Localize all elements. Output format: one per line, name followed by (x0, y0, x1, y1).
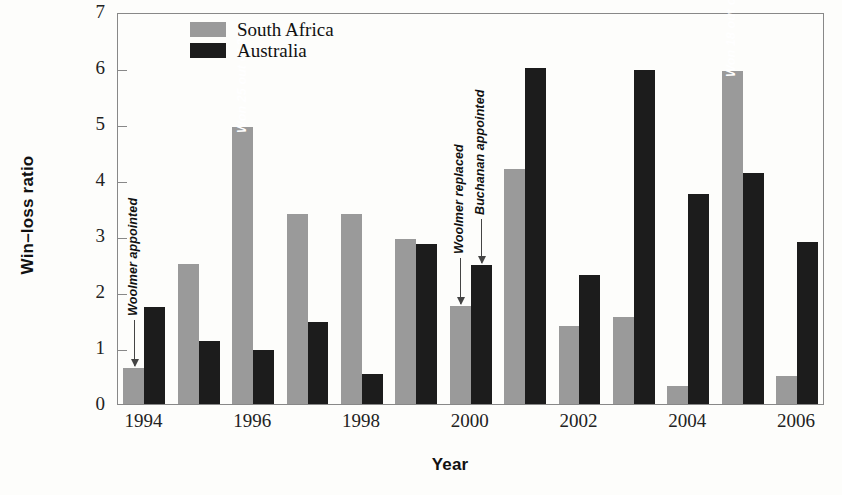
y-axis-tick-label: 3 (75, 225, 105, 247)
bar-australia-2000 (471, 265, 492, 404)
bar-south-africa-1995 (178, 264, 199, 404)
x-axis-tick-label: 2002 (543, 410, 613, 432)
bar-australia-2003 (634, 70, 655, 404)
plot-area: Woolmer appointedWon 25 out of 30Woolmer… (117, 13, 824, 405)
legend-label-south-africa: South Africa (237, 20, 334, 39)
annotation-buchanan-appointed: Buchanan appointed (473, 90, 487, 215)
y-axis-tick-label: 7 (75, 1, 105, 23)
bar-australia-2005 (743, 173, 764, 404)
bar-south-africa-2001 (504, 169, 525, 404)
bar-south-africa-2005 (722, 71, 743, 404)
annotation-won-18-of-24: Won 18 out of 24, 13 in a row (Zim,WI, N… (724, 0, 738, 77)
legend-swatch-south-africa (190, 22, 226, 37)
bar-australia-2004 (688, 194, 709, 404)
y-axis-tick-label: 1 (75, 337, 105, 359)
bar-south-africa-2000 (450, 306, 471, 404)
y-axis-tick (118, 182, 127, 183)
y-axis-tick-label: 6 (75, 57, 105, 79)
y-axis-tick-label: 0 (75, 393, 105, 415)
bar-south-africa-1994 (123, 368, 144, 404)
legend-label-australia: Australia (237, 41, 307, 60)
bar-south-africa-2006 (776, 376, 797, 404)
bar-australia-2001 (525, 68, 546, 404)
x-axis-tick-label: 2004 (652, 410, 722, 432)
y-axis-tick-label: 4 (75, 169, 105, 191)
bar-south-africa-1998 (341, 214, 362, 404)
bar-australia-1994 (144, 307, 165, 404)
bar-south-africa-2003 (613, 317, 634, 404)
bar-australia-1997 (308, 322, 329, 404)
y-axis-tick-label: 2 (75, 281, 105, 303)
bar-australia-1995 (199, 341, 220, 404)
bar-south-africa-1999 (395, 239, 416, 404)
x-axis-title-text: Year (432, 455, 469, 475)
annotation-arrow-buchanan-appointed (481, 219, 482, 263)
bar-australia-2006 (797, 242, 818, 404)
annotation-woolmer-replaced: Woolmer replaced (452, 144, 466, 254)
y-axis-tick (118, 70, 127, 71)
chart-container: Win–loss ratio Year 01234567 19941996199… (0, 0, 842, 495)
legend: South Africa Australia (190, 20, 334, 62)
bar-australia-1996 (253, 350, 274, 404)
x-axis-tick-label: 1996 (217, 410, 287, 432)
x-axis-tick-label: 2006 (761, 410, 831, 432)
bar-australia-2002 (579, 275, 600, 404)
x-axis-tick-label: 2000 (435, 410, 505, 432)
x-axis-tick-label: 1998 (326, 410, 396, 432)
bar-south-africa-1997 (287, 214, 308, 404)
bar-australia-1999 (416, 244, 437, 404)
bar-south-africa-2002 (559, 326, 580, 404)
annotation-arrow-woolmer-replaced (460, 258, 461, 304)
y-axis-title: Win–loss ratio (18, 115, 38, 315)
bar-south-africa-2004 (667, 386, 688, 404)
legend-swatch-australia (190, 43, 226, 58)
legend-item-south-africa: South Africa (190, 20, 334, 39)
y-axis-tick (118, 350, 127, 351)
x-axis-tick-label: 1994 (108, 410, 178, 432)
annotation-woolmer-appointed: Woolmer appointed (126, 197, 140, 315)
bar-south-africa-1996 (232, 127, 253, 404)
annotation-arrow-woolmer-appointed (134, 320, 135, 366)
x-axis-title: Year (0, 455, 842, 475)
y-axis-tick-label: 5 (75, 113, 105, 135)
legend-item-australia: Australia (190, 41, 334, 60)
bar-australia-1998 (362, 374, 383, 404)
y-axis-tick (118, 126, 127, 127)
